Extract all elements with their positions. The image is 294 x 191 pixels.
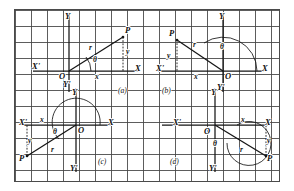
y-neg-axis-label-b: Y' bbox=[217, 83, 225, 92]
point-label-d: P bbox=[267, 154, 272, 163]
origin-label-c: O bbox=[78, 126, 84, 135]
y-axis-label-b: Y bbox=[219, 12, 224, 21]
y-axis-label-a: Y bbox=[65, 12, 70, 21]
x-axis-label-b: X bbox=[262, 64, 268, 73]
abscissa-label-a: x bbox=[95, 73, 99, 81]
graph-paper-grid: P O X X' Y Y' r θ x y (a) P O X bbox=[14, 9, 280, 182]
radius-label-d: r bbox=[240, 146, 243, 154]
point-dot-b bbox=[176, 39, 179, 42]
point-label-b: P bbox=[169, 29, 174, 38]
abscissa-label-b: x bbox=[194, 73, 198, 81]
y-neg-axis-label-d: Y' bbox=[209, 164, 217, 173]
angle-arc-b bbox=[204, 37, 257, 71]
origin-label-b: O bbox=[225, 72, 231, 81]
angle-label-c: θ bbox=[53, 128, 57, 136]
ordinate-label-a: y bbox=[126, 48, 129, 56]
y-axis-label-d: Y bbox=[211, 88, 216, 97]
x-axis-label-c: X bbox=[108, 118, 114, 127]
angle-arc-d bbox=[227, 121, 271, 165]
ordinate-label-c: y bbox=[28, 137, 31, 145]
ordinate-label-d: y bbox=[267, 137, 270, 145]
ordinate-label-b: y bbox=[167, 52, 170, 60]
point-dot-c bbox=[26, 155, 29, 158]
panel-d: P O X X' Y Y' r θ x y (d) bbox=[148, 96, 281, 183]
point-dot-a bbox=[122, 36, 125, 39]
y-neg-axis-label-a: Y' bbox=[63, 80, 71, 89]
panel-b: P O X X' Y Y' r θ x y (b) bbox=[148, 10, 281, 96]
panel-c: P O X X' Y Y' r θ x y (c) bbox=[15, 96, 148, 183]
point-label-a: P bbox=[125, 26, 130, 35]
radius-ray-b bbox=[177, 40, 223, 71]
point-label-c: P bbox=[19, 154, 24, 163]
panel-caption-c: (c) bbox=[98, 157, 106, 166]
x-neg-axis-label-b: X' bbox=[156, 64, 164, 73]
y-axis-label-c: Y bbox=[72, 88, 77, 97]
abscissa-label-c: x bbox=[40, 116, 44, 124]
polar-coordinates-figure: P O X X' Y Y' r θ x y (a) P O X bbox=[0, 0, 294, 191]
x-axis-label-a: X bbox=[135, 64, 141, 73]
angle-label-d: θ bbox=[213, 140, 217, 148]
angle-label-a: θ bbox=[93, 56, 97, 64]
radius-label-b: r bbox=[193, 41, 196, 49]
x-neg-axis-label-d: X' bbox=[173, 118, 181, 127]
panel-caption-d: (d) bbox=[170, 157, 179, 166]
radius-ray-a bbox=[69, 37, 123, 71]
x-neg-axis-label-c: X' bbox=[19, 118, 27, 127]
y-neg-axis-label-c: Y' bbox=[70, 164, 78, 173]
radius-label-c: r bbox=[51, 146, 54, 154]
radius-label-a: r bbox=[89, 44, 92, 52]
panel-c-drawing bbox=[15, 96, 148, 183]
panel-caption-b: (b) bbox=[162, 86, 171, 95]
x-axis-label-d: X bbox=[265, 118, 271, 127]
panel-caption-a: (a) bbox=[118, 86, 127, 95]
x-neg-axis-label-a: X' bbox=[32, 62, 40, 71]
origin-label-d: O bbox=[204, 127, 210, 136]
angle-label-b: θ bbox=[220, 43, 224, 51]
abscissa-label-d: x bbox=[241, 116, 245, 124]
panel-a: P O X X' Y Y' r θ x y (a) bbox=[15, 10, 148, 96]
